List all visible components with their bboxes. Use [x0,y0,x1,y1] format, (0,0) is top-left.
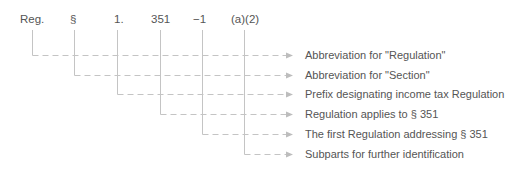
description-first-regulation: The first Regulation addressing § 351 [305,128,488,140]
arrow-icons [286,53,293,158]
description-prefix: Prefix designating income tax Regulation [305,88,504,100]
description-regulation: Abbreviation for "Regulation" [305,49,446,61]
description-subparts: Subparts for further identification [305,148,464,160]
description-section: Abbreviation for "Section" [305,69,430,81]
description-applies-to: Regulation applies to § 351 [305,108,438,120]
